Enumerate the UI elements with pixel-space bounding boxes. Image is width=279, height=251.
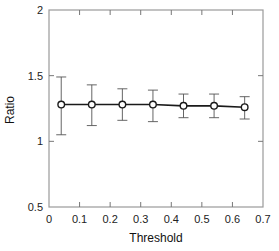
y-axis-title: Ratio [3,96,17,124]
x-tick-label: 0.4 [164,213,179,225]
x-tick-label: 0.5 [194,213,209,225]
ratio-vs-threshold-chart: 00.10.20.30.40.50.60.7 0.511.52 Threshol… [0,0,279,251]
x-axis-title: Threshold [129,231,182,245]
data-point-marker [241,104,248,111]
x-tick-label: 0.6 [225,213,240,225]
plot-border [49,10,263,207]
y-tick-label: 2 [37,4,43,16]
x-axis-ticks: 00.10.20.30.40.50.60.7 [46,10,271,225]
y-tick-label: 1 [37,135,43,147]
data-point-marker [119,101,126,108]
data-point-marker [180,103,187,110]
x-tick-label: 0.3 [133,213,148,225]
x-tick-label: 0 [46,213,52,225]
data-point-marker [211,103,218,110]
data-point-marker [58,101,65,108]
y-axis-ticks: 0.511.52 [28,4,263,213]
x-tick-label: 0.1 [72,213,87,225]
data-point-marker [150,101,157,108]
data-series [56,77,249,135]
data-point-marker [89,101,96,108]
x-tick-label: 0.2 [102,213,117,225]
y-tick-label: 1.5 [28,70,43,82]
x-tick-label: 0.7 [255,213,270,225]
y-tick-label: 0.5 [28,201,43,213]
plot-frame [49,10,263,207]
